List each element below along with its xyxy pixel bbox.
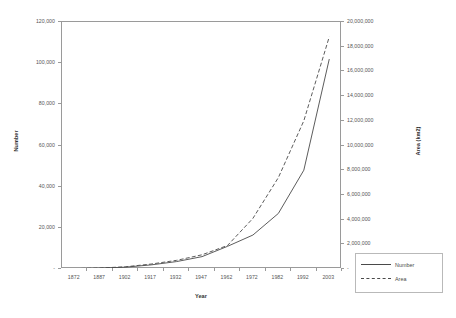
- x-axis-tick-label: 1902: [119, 274, 131, 280]
- series-line-number: [75, 59, 330, 268]
- y-axis-right-tick-mark: [341, 120, 344, 121]
- y-axis-right-tick-mark: [341, 194, 344, 195]
- y-axis-left-tick-mark: [58, 268, 61, 269]
- x-axis-tick-mark: [112, 268, 113, 271]
- y-axis-left-tick-label: 20,000: [8, 224, 55, 230]
- x-axis-tick-label: 1917: [144, 274, 156, 280]
- x-axis-tick-label: 1982: [271, 274, 283, 280]
- x-axis-tick-mark: [86, 268, 87, 271]
- plot-area: [61, 21, 341, 268]
- y-axis-right-tick-label: 4,000,000: [347, 216, 371, 222]
- x-axis-tick-mark: [265, 268, 266, 271]
- x-axis-tick-label: 1962: [221, 274, 233, 280]
- x-axis-tick-mark: [239, 268, 240, 271]
- y-axis-right-tick-mark: [341, 46, 344, 47]
- y-axis-right-tick-mark: [341, 70, 344, 71]
- y-axis-right-tick-label: 10,000,000: [347, 142, 373, 148]
- x-axis-tick-mark: [214, 268, 215, 271]
- y-axis-left-tick-label: -: [8, 265, 55, 271]
- x-axis-tick-label: 2003: [322, 274, 334, 280]
- y-axis-right-tick-label: 18,000,000: [347, 43, 373, 49]
- x-axis-tick-mark: [163, 268, 164, 271]
- y-axis-right-tick-label: 2,000,000: [347, 240, 371, 246]
- y-axis-right-tick-mark: [341, 219, 344, 220]
- y-axis-left-tick-label: 80,000: [8, 100, 55, 106]
- y-axis-right-tick-mark: [341, 21, 344, 22]
- legend-item-number: Number: [359, 258, 439, 272]
- y-axis-left-tick-mark: [58, 145, 61, 146]
- y-axis-right-title: Area (km2): [415, 111, 421, 171]
- x-axis-tick-mark: [137, 268, 138, 271]
- y-axis-right-tick-mark: [341, 169, 344, 170]
- x-axis-tick-label: 1947: [195, 274, 207, 280]
- x-axis-title: Year: [141, 293, 261, 299]
- x-axis-tick-label: 1992: [297, 274, 309, 280]
- legend-item-area: Area: [359, 272, 439, 286]
- x-axis-tick-mark: [341, 268, 342, 271]
- y-axis-left-tick-label: 100,000: [8, 59, 55, 65]
- y-axis-right-tick-mark: [341, 95, 344, 96]
- y-axis-right-tick-label: -: [347, 265, 349, 271]
- y-axis-right-tick-mark: [341, 145, 344, 146]
- legend-label-number: Number: [395, 262, 414, 268]
- x-axis-tick-mark: [316, 268, 317, 271]
- y-axis-left-tick-mark: [58, 103, 61, 104]
- y-axis-right-tick-label: 6,000,000: [347, 191, 371, 197]
- y-axis-right-tick-label: 12,000,000: [347, 117, 373, 123]
- y-axis-left-tick-mark: [58, 186, 61, 187]
- y-axis-right-tick-label: 14,000,000: [347, 92, 373, 98]
- y-axis-right-tick-label: 8,000,000: [347, 166, 371, 172]
- y-axis-left-tick-mark: [58, 62, 61, 63]
- x-axis-tick-mark: [188, 268, 189, 271]
- x-axis-tick-label: 1972: [246, 274, 258, 280]
- y-axis-left-tick-label: 40,000: [8, 183, 55, 189]
- legend-label-area: Area: [395, 276, 406, 282]
- series-lines: [62, 22, 341, 268]
- y-axis-left-tick-label: 120,000: [8, 18, 55, 24]
- y-axis-right-tick-label: 20,000,000: [347, 18, 373, 24]
- legend-key-dashed-line: [361, 278, 391, 280]
- legend-key-solid-line: [361, 264, 391, 266]
- x-axis-tick-mark: [290, 268, 291, 271]
- x-axis-tick-label: 1872: [68, 274, 80, 280]
- chart-container: -20,00040,00060,00080,000100,000120,000-…: [0, 0, 456, 318]
- series-line-area: [75, 37, 330, 268]
- y-axis-right-tick-mark: [341, 243, 344, 244]
- x-axis-tick-label: 1932: [170, 274, 182, 280]
- chart-legend: Number Area: [355, 253, 443, 293]
- x-axis-tick-label: 1887: [93, 274, 105, 280]
- y-axis-left-title: Number: [13, 111, 19, 171]
- y-axis-left-tick-mark: [58, 21, 61, 22]
- y-axis-right-tick-label: 16,000,000: [347, 67, 373, 73]
- y-axis-left-tick-mark: [58, 227, 61, 228]
